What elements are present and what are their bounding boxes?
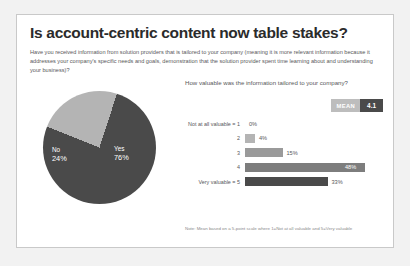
bar-value-label: 48% <box>345 164 356 170</box>
mean-badge-label: MEAN <box>331 99 360 112</box>
pie-slice-value-yes: 76% <box>114 153 129 164</box>
bar-category-label: 4 <box>185 164 245 170</box>
pie-slice-value-no: 24% <box>52 154 67 165</box>
bar-track: 4% <box>245 134 383 143</box>
bar-category-label: Very valuable = 5 <box>185 179 245 185</box>
bar-track: 33% <box>245 177 383 186</box>
bar-fill <box>245 148 283 157</box>
bar-fill <box>245 134 255 143</box>
bar-row: Not at all valuable = 10% <box>185 119 383 128</box>
bar-category-label: 3 <box>185 150 245 156</box>
bar-value-label: 4% <box>255 135 267 141</box>
pie-chart: No 24% Yes 76% <box>31 89 163 221</box>
bar-category-label: 2 <box>185 135 245 141</box>
bar-track: 0% <box>245 119 383 128</box>
bar-row: 315% <box>185 148 383 157</box>
bar-track: 48% <box>245 163 383 172</box>
mean-badge: MEAN 4.1 <box>331 99 383 112</box>
survey-question-text: Have you received information from solut… <box>30 48 382 75</box>
footnote: Note: Mean based on a 5-point scale wher… <box>185 226 391 231</box>
pie-slice-label-yes: Yes 76% <box>114 144 129 164</box>
bar-chart-panel: How valuable was the information tailore… <box>185 79 383 229</box>
mean-badge-value: 4.1 <box>360 99 383 112</box>
bar-chart-title: How valuable was the information tailore… <box>185 79 383 86</box>
bar-row: 24% <box>185 134 383 143</box>
bar-row: Very valuable = 533% <box>185 177 383 186</box>
page-title: Is account-centric content now table sta… <box>30 24 380 41</box>
pie-slice-label-no: No 24% <box>52 145 67 165</box>
bar-value-label: 33% <box>328 179 343 185</box>
bar-fill <box>245 177 328 186</box>
bar-row: 448% <box>185 163 383 172</box>
slide-card: Is account-centric content now table sta… <box>16 14 394 248</box>
bar-value-label: 15% <box>283 150 298 156</box>
bar-chart-rows: Not at all valuable = 10%24%315%448%Very… <box>185 119 383 192</box>
bar-value-label: 0% <box>245 121 257 127</box>
pie-slice-name-no: No <box>52 146 60 153</box>
bar-category-label: Not at all valuable = 1 <box>185 121 245 127</box>
bar-track: 15% <box>245 148 383 157</box>
pie-slice-name-yes: Yes <box>114 145 124 152</box>
